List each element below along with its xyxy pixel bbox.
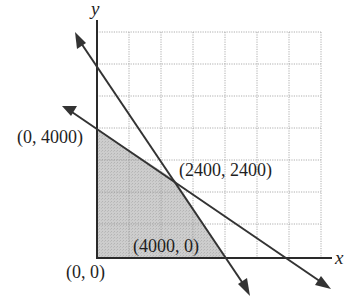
point-label-origin: (0, 0): [66, 262, 105, 283]
feasible-region-graph: y x (0, 4000) (2400, 2400) (4000, 0) (0,…: [0, 0, 346, 297]
arrowhead-icon: [315, 276, 331, 289]
x-axis-label: x: [334, 247, 344, 268]
point-label-intersection: (2400, 2400): [179, 160, 272, 181]
grid: [97, 32, 321, 258]
y-axis-label: y: [89, 0, 100, 19]
point-label-y-intercept: (0, 4000): [17, 127, 83, 148]
point-label-x-intercept: (4000, 0): [133, 236, 199, 257]
arrowhead-icon: [238, 278, 250, 296]
